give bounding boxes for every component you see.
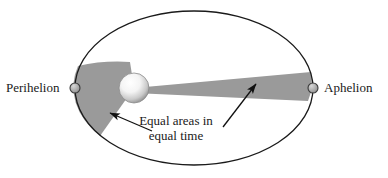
caption-line-1: Equal areas in [124, 114, 228, 129]
perihelion-marker [70, 83, 80, 93]
aphelion-label: Aphelion [324, 81, 372, 96]
equal-areas-caption: Equal areas in equal time [124, 114, 228, 144]
aphelion-swept-area [134, 72, 312, 101]
perihelion-label: Perihelion [6, 81, 59, 96]
orbit-diagram: Perihelion Aphelion Equal areas in equal… [0, 0, 388, 178]
caption-line-2: equal time [124, 129, 228, 144]
sun-body [119, 73, 149, 103]
aphelion-marker [308, 83, 318, 93]
